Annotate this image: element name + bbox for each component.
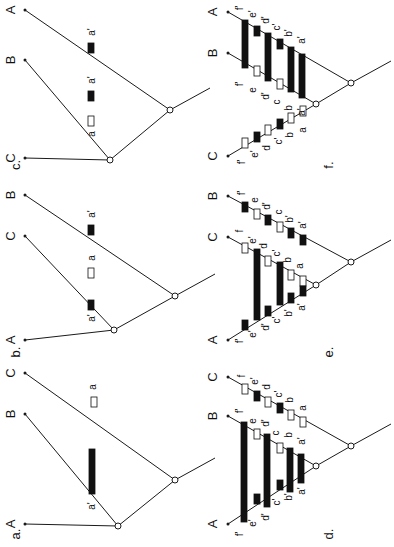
internal-branch — [316, 83, 351, 104]
branch-C — [25, 158, 110, 160]
derived-state-mark — [254, 391, 260, 401]
character-bar — [298, 454, 304, 483]
derived-state-mark — [300, 235, 306, 245]
character-bar — [241, 422, 247, 522]
taxon-label-B: B — [3, 191, 18, 200]
character-label: a' — [86, 502, 97, 510]
ancestral-state-mark — [254, 66, 260, 76]
character-label: c' — [273, 390, 284, 397]
tip-dot — [227, 236, 230, 239]
derived-state-mark — [277, 119, 283, 129]
panel-c: aa'a'CBAc. — [3, 5, 210, 170]
panel-caption: d. — [321, 529, 336, 540]
derived-state-mark — [265, 306, 271, 316]
derived-state-mark — [288, 228, 294, 238]
taxon-label-C: C — [205, 151, 220, 160]
character-label: d' — [260, 513, 271, 521]
panel-f: f'e'dc'baf'e'd'c'b'a'f'ed'cba'CBAf. — [205, 6, 391, 169]
branch-C — [25, 373, 175, 480]
inner-node — [111, 327, 117, 333]
branch-B — [25, 60, 110, 160]
tip-dot — [227, 195, 230, 198]
character-label: c' — [271, 316, 282, 323]
tip-dot — [24, 59, 27, 62]
character-label: c — [271, 100, 282, 105]
character-label: b — [283, 105, 294, 111]
derived-state-mark — [88, 91, 94, 101]
tip-dot — [227, 52, 230, 55]
character-label: a — [86, 255, 97, 261]
derived-state-mark — [254, 132, 260, 142]
inner-node — [313, 282, 319, 288]
panel-caption: c. — [8, 160, 23, 170]
derived-state-mark — [88, 300, 94, 310]
internal-branch — [316, 446, 351, 466]
character-label: b — [284, 397, 295, 403]
tip-dot — [24, 194, 27, 197]
character-label: e' — [247, 10, 258, 18]
character-label: d' — [260, 323, 271, 331]
character-label: a' — [86, 210, 97, 218]
character-label: a — [87, 384, 98, 390]
ancestral-state-mark — [254, 429, 260, 439]
character-label: d — [261, 145, 272, 151]
ancestral-state-mark — [242, 384, 248, 394]
character-bar — [89, 449, 95, 494]
tip-dot — [24, 523, 27, 526]
root-stem — [351, 61, 391, 83]
root-node — [348, 80, 354, 86]
tip-dot — [24, 235, 27, 238]
character-label: a — [294, 263, 305, 269]
root-node — [348, 443, 354, 449]
panel-e: f'ed'cb'a'fdbaf'e'd'c'b'a'e'c'ACBe. — [205, 191, 391, 358]
character-bar — [242, 20, 248, 68]
derived-state-mark — [88, 225, 94, 235]
ancestral-state-mark — [288, 270, 294, 280]
inner-node — [107, 157, 113, 163]
root-stem — [351, 424, 391, 446]
derived-state-mark — [300, 286, 306, 296]
branch-A — [25, 330, 114, 340]
character-label: a — [86, 131, 97, 137]
character-label: b — [282, 257, 293, 263]
taxon-label-C: C — [205, 232, 220, 241]
character-label: b — [284, 132, 295, 138]
character-label: a' — [86, 314, 97, 322]
ancestral-state-mark — [88, 116, 94, 126]
ancestral-state-mark — [288, 410, 294, 420]
character-label: f' — [234, 532, 245, 537]
tip-dot — [227, 415, 230, 418]
taxon-label-A: A — [3, 5, 18, 14]
character-label: e' — [249, 377, 260, 385]
panel-a: aa'ABCa. — [3, 368, 215, 539]
ancestral-state-mark — [300, 417, 306, 427]
derived-state-mark — [277, 403, 283, 413]
branch-A — [25, 524, 118, 526]
character-label: a' — [296, 36, 307, 44]
ancestral-state-mark — [277, 79, 283, 89]
character-label: e' — [247, 519, 258, 527]
derived-state-mark — [254, 494, 260, 504]
character-label: f — [234, 229, 245, 232]
character-label: c' — [271, 498, 282, 505]
character-label: d' — [261, 202, 272, 210]
branch-B — [25, 414, 118, 526]
root-stem — [175, 458, 215, 480]
character-label: d' — [260, 92, 271, 100]
character-bar — [277, 262, 283, 305]
character-label: f' — [234, 6, 245, 11]
ancestral-state-mark — [254, 209, 260, 219]
derived-state-mark — [277, 480, 283, 490]
root-stem — [351, 240, 391, 262]
character-label: a' — [296, 437, 307, 445]
tip-dot — [24, 9, 27, 12]
ancestral-state-mark — [300, 276, 306, 286]
tip-dot — [227, 523, 230, 526]
taxon-label-A: A — [3, 519, 18, 528]
internal-branch — [114, 296, 175, 330]
character-label: e — [247, 87, 258, 93]
phylogeny-figure: aa'ABCa.a'aa'ACBb.aa'a'CBAc.fe'dc'baecf'… — [0, 0, 394, 547]
taxon-label-B: B — [3, 56, 18, 65]
panel-b: a'aa'ACBb. — [3, 191, 215, 358]
tip-dot — [227, 155, 230, 158]
